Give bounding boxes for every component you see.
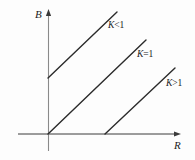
line-label-k-less-than-one: K<1 xyxy=(108,21,124,31)
k-relation: =1 xyxy=(143,49,153,59)
k-relation: >1 xyxy=(172,78,182,88)
line-label-k-greater-than-one: K>1 xyxy=(166,79,182,89)
b-axis-arrowhead xyxy=(46,9,51,16)
line-k-less-than-one xyxy=(48,12,117,78)
line-k-greater-than-one xyxy=(105,68,175,134)
b-axis-label: B xyxy=(35,9,42,20)
b-axis xyxy=(46,9,51,151)
r-axis xyxy=(18,131,181,136)
figure-canvas: B R K<1 K=1 K>1 xyxy=(0,0,195,160)
line-k-equals-one xyxy=(48,40,146,134)
r-axis-label: R xyxy=(174,140,181,151)
k-relation: <1 xyxy=(114,20,124,30)
line-label-k-equals-one: K=1 xyxy=(137,50,153,60)
r-axis-arrowhead xyxy=(174,131,181,136)
